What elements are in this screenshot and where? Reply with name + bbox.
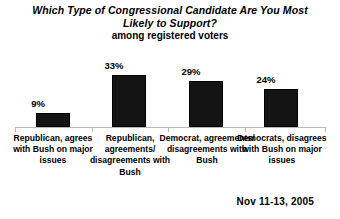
bar-value-0: 9%	[8, 99, 68, 109]
axis-tick-1	[92, 128, 93, 132]
bar-3	[264, 89, 298, 127]
bar-value-2: 29%	[161, 67, 221, 77]
axis-tick-2	[168, 128, 169, 132]
x-axis-line	[15, 127, 326, 128]
axis-tick-0	[15, 128, 16, 132]
bar-value-1: 33%	[84, 61, 144, 71]
chart-title: Which Type of Congressional Candidate Ar…	[0, 4, 340, 29]
survey-date: Nov 11-13, 2005	[237, 196, 315, 207]
bar-2	[189, 81, 223, 127]
chart-subtitle: among registered voters	[0, 30, 340, 42]
bar-0	[36, 113, 70, 127]
title-block: Which Type of Congressional Candidate Ar…	[0, 4, 340, 42]
axis-tick-3	[245, 128, 246, 132]
poll-bar-chart: Which Type of Congressional Candidate Ar…	[0, 0, 340, 219]
category-label-3: Democrats, disagrees with Bush on major …	[234, 133, 330, 167]
bar-value-3: 24%	[236, 75, 296, 85]
bar-1	[112, 75, 146, 127]
axis-tick-4	[325, 128, 326, 132]
